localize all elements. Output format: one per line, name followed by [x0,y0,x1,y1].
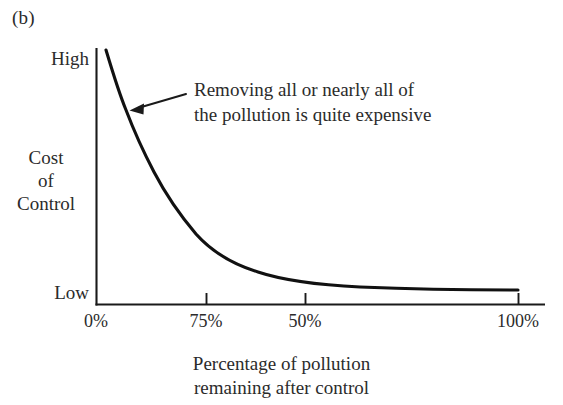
x-tick-label-3: 100% [497,312,539,330]
y-axis-low-label: Low [54,283,89,303]
y-axis-title: Cost of Control [3,146,89,216]
y-axis-title-line-3: Control [3,192,89,215]
x-tick-label-1: 75% [190,312,223,330]
curve-annotation-line-1: Removing all or nearly all of [194,78,431,103]
x-axis-title-line-1: Percentage of pollution [0,352,563,376]
y-axis-high-label: High [51,49,89,69]
x-axis-title-line-2: remaining after control [0,376,563,400]
curve-annotation-line-2: the pollution is quite expensive [194,103,431,128]
x-tick-label-2: 50% [289,312,322,330]
y-axis-title-line-1: Cost [3,146,89,169]
x-axis-title: Percentage of pollution remaining after … [0,352,563,401]
y-axis-title-line-2: of [3,169,89,192]
x-axis-ticks [207,293,519,304]
chart-figure: (b) High Cost of Control Low 0% 75% 50% … [0,0,563,405]
curve-annotation: Removing all or nearly all of the pollut… [194,78,431,127]
x-tick-label-0: 0% [84,312,108,330]
annotation-arrow [130,94,187,115]
